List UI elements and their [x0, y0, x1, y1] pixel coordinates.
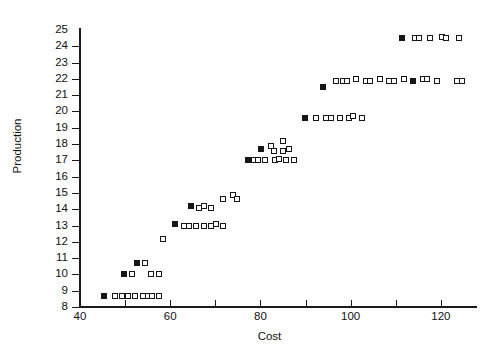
x-tick-label-text: 100	[331, 311, 371, 323]
y-tick-label-text: 25	[42, 24, 68, 36]
x-tick-120	[441, 300, 442, 307]
x-minor-tick-70	[215, 300, 216, 307]
data-point	[391, 78, 397, 84]
y-tick-label-text: 21	[42, 89, 68, 101]
x-tick-label-100: 100	[331, 311, 371, 325]
data-point	[359, 115, 365, 121]
y-tick-18	[72, 144, 79, 145]
data-point	[283, 157, 289, 163]
x-minor-tick-50	[125, 300, 126, 307]
data-point	[337, 115, 343, 121]
y-tick-label-text: 14	[42, 203, 68, 215]
y-tick-12	[72, 242, 79, 243]
x-tick-label-text: 40	[60, 311, 100, 323]
y-tick-label-23: 23	[40, 57, 68, 69]
data-point	[353, 76, 359, 82]
data-point	[377, 76, 383, 82]
data-point	[456, 35, 462, 41]
data-point	[101, 293, 107, 299]
data-point	[424, 76, 430, 82]
y-tick-label-16: 16	[40, 171, 68, 183]
x-tick-label-text: 60	[150, 311, 190, 323]
data-point	[172, 221, 178, 227]
data-point	[416, 35, 422, 41]
x-tick-label-120: 120	[421, 311, 461, 325]
data-point	[410, 78, 416, 84]
y-tick-14	[72, 209, 79, 210]
data-point	[132, 293, 138, 299]
data-point	[245, 157, 251, 163]
y-tick-label-17: 17	[40, 154, 68, 166]
data-point	[134, 260, 140, 266]
data-point	[333, 78, 339, 84]
y-tick-13	[72, 226, 79, 227]
y-tick-16	[72, 177, 79, 178]
y-tick-label-text: 22	[42, 73, 68, 85]
data-point	[443, 35, 449, 41]
x-axis-line	[79, 306, 477, 308]
data-point	[156, 271, 162, 277]
y-tick-19	[72, 128, 79, 129]
x-tick-40	[80, 300, 81, 307]
y-tick-label-20: 20	[40, 105, 68, 117]
y-tick-label-9: 9	[40, 285, 68, 297]
data-point	[350, 113, 356, 119]
y-tick-label-text: 13	[42, 220, 68, 232]
y-tick-label-12: 12	[40, 236, 68, 248]
y-tick-label-18: 18	[40, 138, 68, 150]
y-tick-21	[72, 95, 79, 96]
data-point	[255, 157, 261, 163]
data-point	[220, 223, 226, 229]
data-point	[399, 35, 405, 41]
data-point	[271, 148, 277, 154]
data-point	[434, 78, 440, 84]
data-point	[427, 35, 433, 41]
data-point	[201, 203, 207, 209]
y-tick-label-13: 13	[40, 220, 68, 232]
data-point	[129, 271, 135, 277]
x-tick-80	[260, 300, 261, 307]
y-tick-label-text: 11	[42, 252, 68, 264]
data-point	[344, 78, 350, 84]
y-axis-line	[79, 28, 81, 308]
data-point	[149, 293, 155, 299]
y-tick-label-21: 21	[40, 89, 68, 101]
y-tick-22	[72, 79, 79, 80]
data-point	[208, 205, 214, 211]
x-tick-label-60: 60	[150, 311, 190, 325]
y-tick-label-text: 24	[42, 40, 68, 52]
data-point	[280, 138, 286, 144]
y-axis-title: Production	[11, 96, 23, 196]
y-tick-label-22: 22	[40, 73, 68, 85]
y-tick-20	[72, 111, 79, 112]
y-tick-24	[72, 46, 79, 47]
y-tick-11	[72, 258, 79, 259]
data-point	[142, 260, 148, 266]
data-point	[320, 84, 326, 90]
data-point	[112, 293, 118, 299]
y-tick-15	[72, 193, 79, 194]
x-tick-label-80: 80	[240, 311, 280, 325]
y-tick-label-10: 10	[40, 268, 68, 280]
scatter-chart: 8910111213141516171819202122232425 40608…	[0, 0, 497, 351]
data-point	[258, 146, 264, 152]
y-tick-23	[72, 63, 79, 64]
x-tick-60	[170, 300, 171, 307]
y-tick-label-text: 15	[42, 187, 68, 199]
y-tick-label-text: 20	[42, 105, 68, 117]
data-point	[367, 78, 373, 84]
y-tick-label-11: 11	[40, 252, 68, 264]
data-point	[280, 148, 286, 154]
data-point	[286, 146, 292, 152]
x-tick-label-text: 80	[240, 311, 280, 323]
y-tick-label-text: 17	[42, 154, 68, 166]
data-point	[160, 236, 166, 242]
y-tick-label-text: 23	[42, 57, 68, 69]
data-point	[291, 157, 297, 163]
x-tick-100	[351, 300, 352, 307]
y-tick-label-text: 19	[42, 122, 68, 134]
data-point	[328, 115, 334, 121]
y-tick-17	[72, 160, 79, 161]
y-tick-label-text: 18	[42, 138, 68, 150]
data-point	[220, 196, 226, 202]
